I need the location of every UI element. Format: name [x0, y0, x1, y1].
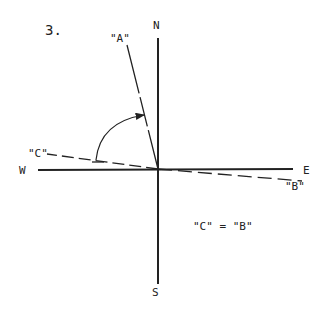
- east-label: E: [303, 164, 310, 177]
- west-label: W: [19, 164, 26, 177]
- compass-diagram: 3. N S E W "A" "B" "C" "C" = "B": [0, 0, 328, 309]
- south-label: S: [152, 286, 159, 299]
- equation-label: "C" = "B": [193, 220, 253, 233]
- angle-arc-arrow: [96, 115, 144, 160]
- figure-number: 3.: [45, 22, 62, 38]
- bearing-c-label: "C": [28, 147, 48, 160]
- bearing-b-line: [158, 169, 302, 181]
- bearing-b-label: "B": [285, 180, 305, 193]
- bearing-a-line: [127, 45, 158, 169]
- bearing-a-label: "A": [110, 32, 130, 45]
- north-label: N: [153, 19, 160, 32]
